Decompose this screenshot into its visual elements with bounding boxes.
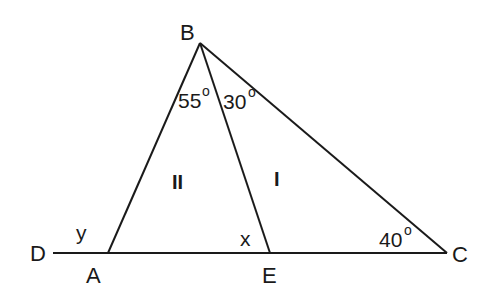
angle-ABE-value: 55: [178, 89, 201, 112]
angle-BCE-value: 40: [379, 228, 402, 251]
region-label-II: II: [172, 171, 183, 193]
angle-BCE-label: 40 o: [379, 222, 412, 251]
angle-EBC-label: 30 o: [223, 84, 256, 113]
angle-BCE-degree: o: [404, 222, 412, 238]
vertex-label-D: D: [30, 241, 46, 266]
geometry-diagram: B D A E C 55 o 30 o 40 o y x II I: [0, 0, 486, 302]
vertex-label-B: B: [180, 20, 195, 45]
angle-y-label: y: [76, 221, 87, 244]
segment-BE: [200, 43, 270, 253]
angle-ABE-label: 55 o: [178, 83, 210, 112]
angle-EBC-value: 30: [223, 90, 246, 113]
side-AB: [108, 43, 200, 253]
angle-EBC-degree: o: [248, 84, 256, 100]
vertex-label-E: E: [262, 263, 277, 288]
angle-x-label: x: [240, 227, 251, 250]
vertex-label-A: A: [86, 263, 101, 288]
region-label-I: I: [274, 168, 280, 190]
vertex-label-C: C: [452, 242, 468, 267]
angle-ABE-degree: o: [202, 83, 210, 99]
